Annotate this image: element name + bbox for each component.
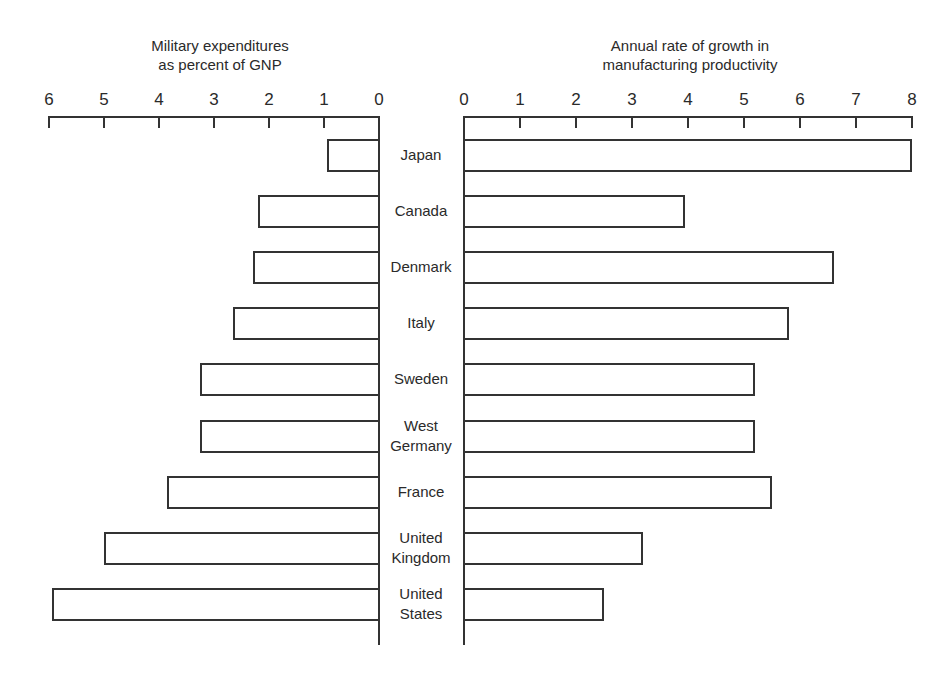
right-axis-tick-label: 6	[795, 90, 804, 110]
country-label: Japan	[380, 145, 462, 165]
right-axis-tick-label: 0	[459, 90, 468, 110]
right-chart-title: Annual rate of growth in manufacturing p…	[540, 36, 840, 74]
productivity-growth-bar	[463, 251, 834, 284]
country-label: UnitedKingdom	[380, 528, 462, 568]
left-axis-tick	[323, 116, 325, 128]
right-axis-tick	[687, 116, 689, 128]
right-axis-tick	[631, 116, 633, 128]
productivity-growth-bar	[463, 532, 643, 565]
left-axis-tick-label: 1	[319, 90, 328, 110]
left-axis-tick	[158, 116, 160, 128]
country-label-line2: Kingdom	[380, 548, 462, 568]
left-axis-tick-label: 2	[264, 90, 273, 110]
country-label-line2: States	[380, 604, 462, 624]
military-expenditure-bar	[253, 251, 381, 284]
country-label-line1: Denmark	[380, 257, 462, 277]
right-axis-tick	[911, 116, 913, 128]
military-expenditure-bar	[52, 588, 380, 621]
left-axis-tick-label: 0	[374, 90, 383, 110]
country-label: Italy	[380, 313, 462, 333]
country-label: WestGermany	[380, 416, 462, 456]
left-title-line1: Military expenditures	[70, 36, 370, 55]
productivity-growth-bar	[463, 476, 772, 509]
left-chart-title: Military expenditures as percent of GNP	[70, 36, 370, 74]
right-axis-tick-label: 1	[515, 90, 524, 110]
left-axis-tick	[103, 116, 105, 128]
military-expenditure-bar	[200, 420, 380, 453]
right-axis-tick-label: 5	[739, 90, 748, 110]
military-expenditure-bar	[327, 139, 380, 172]
productivity-growth-bar	[463, 139, 912, 172]
country-label: Canada	[380, 201, 462, 221]
left-axis-tick	[268, 116, 270, 128]
right-axis-tick	[743, 116, 745, 128]
left-axis-tick-label: 6	[44, 90, 53, 110]
right-axis-tick-label: 7	[851, 90, 860, 110]
left-axis-tick	[378, 116, 380, 128]
productivity-growth-bar	[463, 307, 789, 340]
country-label-line1: Sweden	[380, 369, 462, 389]
country-label-line1: United	[380, 584, 462, 604]
productivity-growth-bar	[463, 588, 604, 621]
military-expenditure-bar	[233, 307, 380, 340]
left-axis-tick-label: 5	[99, 90, 108, 110]
country-label-line1: West	[380, 416, 462, 436]
productivity-growth-bar	[463, 420, 755, 453]
country-label: France	[380, 482, 462, 502]
right-axis-tick	[799, 116, 801, 128]
military-expenditure-bar	[167, 476, 380, 509]
left-axis-tick	[48, 116, 50, 128]
right-axis-tick-label: 2	[571, 90, 580, 110]
country-label-line1: Canada	[380, 201, 462, 221]
right-axis-tick-label: 3	[627, 90, 636, 110]
country-label: Sweden	[380, 369, 462, 389]
right-title-line1: Annual rate of growth in	[540, 36, 840, 55]
right-axis-tick	[519, 116, 521, 128]
right-axis-tick	[575, 116, 577, 128]
productivity-growth-bar	[463, 363, 755, 396]
left-axis-tick-label: 4	[154, 90, 163, 110]
country-label-line1: France	[380, 482, 462, 502]
right-axis-tick-label: 4	[683, 90, 692, 110]
left-title-line2: as percent of GNP	[70, 55, 370, 74]
military-expenditure-bar	[104, 532, 380, 565]
right-axis-tick-label: 8	[907, 90, 916, 110]
country-label: Denmark	[380, 257, 462, 277]
country-label-line2: Germany	[380, 436, 462, 456]
military-expenditure-bar	[200, 363, 380, 396]
right-title-line2: manufacturing productivity	[540, 55, 840, 74]
country-label-line1: United	[380, 528, 462, 548]
left-axis-tick	[213, 116, 215, 128]
country-label: UnitedStates	[380, 584, 462, 624]
right-axis-tick	[463, 116, 465, 128]
right-axis-tick	[855, 116, 857, 128]
left-axis-tick-label: 3	[209, 90, 218, 110]
country-label-line1: Japan	[380, 145, 462, 165]
productivity-growth-bar	[463, 195, 685, 228]
country-label-line1: Italy	[380, 313, 462, 333]
military-expenditure-bar	[258, 195, 380, 228]
